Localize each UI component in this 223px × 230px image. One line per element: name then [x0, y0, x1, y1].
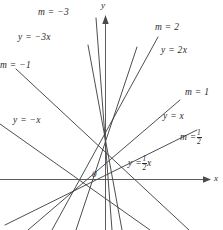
line-slope-neg-half	[0, 124, 150, 230]
x-axis-label: x	[214, 174, 218, 183]
x-axis-arrowhead	[203, 176, 211, 182]
label-y-x: y = x	[163, 112, 184, 122]
line-slope-steep-neg	[96, 18, 112, 230]
origin-label: 0	[92, 170, 97, 179]
label-y-halfx: y =12x	[128, 155, 151, 172]
label-m-neg3: m = −3	[38, 8, 69, 18]
fraction-denominator: 2	[197, 138, 202, 146]
y-axis-label: y	[101, 1, 105, 10]
label-y-negx: y = −x	[13, 116, 41, 126]
slope-lines-figure: m = −3 y = −3x m = −1 y = −x m = 2 y = 2…	[0, 0, 223, 230]
label-m-1: m = 1	[185, 88, 209, 98]
line-slope-2	[52, 37, 158, 230]
label-m-half-prefix: m =	[180, 132, 197, 142]
label-y-halfx-suffix: x	[147, 158, 152, 168]
label-y-halfx-prefix: y =	[128, 158, 142, 168]
line-slope-steep-pos	[76, 47, 137, 230]
y-axis-arrowhead	[102, 15, 108, 24]
label-m-half: m =12	[180, 129, 202, 146]
label-y-neg3x: y = −3x	[18, 33, 51, 43]
label-y-2x: y = 2x	[161, 46, 187, 56]
fraction-one-half: 12	[197, 129, 202, 146]
label-m-2: m = 2	[155, 23, 179, 33]
label-m-neg1: m = −1	[0, 61, 31, 71]
